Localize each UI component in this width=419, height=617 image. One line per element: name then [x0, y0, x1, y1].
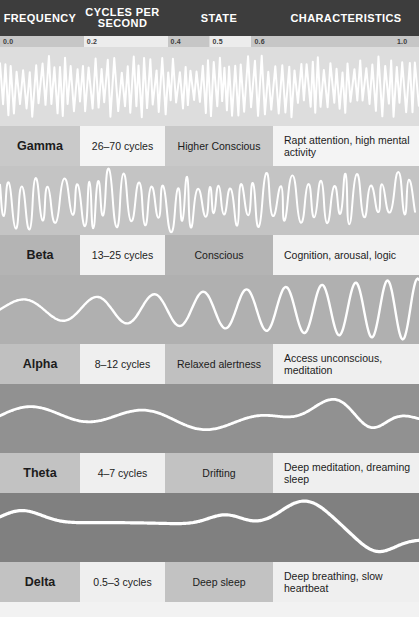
header-state: STATE [165, 0, 273, 36]
ruler-tick-0-0: 0.0 [3, 36, 13, 47]
row-characteristics-beta-label: Cognition, arousal, logic [284, 249, 396, 261]
row-state-beta: Conscious [165, 235, 273, 275]
row-state-theta: Drifting [165, 453, 273, 493]
row-cycles-theta-label: 4–7 cycles [98, 467, 148, 479]
row-state-beta-label: Conscious [194, 249, 243, 261]
header-frequency-label: FREQUENCY [4, 13, 77, 24]
row-cycles-gamma-label: 26–70 cycles [92, 140, 153, 152]
table-header: FREQUENCY CYCLES PER SECOND STATE CHARAC… [0, 0, 419, 36]
table-row: Beta13–25 cyclesConsciousCognition, arou… [0, 235, 419, 275]
waveform-band-delta [0, 493, 419, 562]
row-state-delta: Deep sleep [165, 562, 273, 602]
ruler-tick-0-4: 0.4 [171, 36, 181, 47]
row-characteristics-theta-label: Deep meditation, dreaming sleep [284, 461, 413, 485]
row-state-theta-label: Drifting [202, 467, 235, 479]
row-name-theta-label: Theta [23, 467, 56, 479]
row-characteristics-alpha-label: Access unconscious, meditation [284, 352, 413, 376]
row-characteristics-gamma: Rapt attention, high mental activity [273, 126, 419, 166]
row-name-delta: Delta [0, 562, 80, 602]
row-name-beta: Beta [0, 235, 80, 275]
table-row: Theta4–7 cyclesDriftingDeep meditation, … [0, 453, 419, 493]
row-name-beta-label: Beta [26, 249, 53, 261]
row-state-alpha-label: Relaxed alertness [177, 358, 261, 370]
table-row: Delta0.5–3 cyclesDeep sleepDeep breathin… [0, 562, 419, 602]
row-name-gamma-label: Gamma [17, 140, 63, 152]
ruler-segment [251, 36, 419, 47]
row-state-gamma: Higher Conscious [165, 126, 273, 166]
row-characteristics-beta: Cognition, arousal, logic [273, 235, 419, 275]
row-cycles-alpha-label: 8–12 cycles [95, 358, 150, 370]
row-cycles-alpha: 8–12 cycles [80, 344, 165, 384]
header-characteristics-label: CHARACTERISTICS [290, 13, 401, 24]
ruler-tick-1-0: 1.0 [397, 36, 407, 47]
row-characteristics-delta: Deep breathing, slow heartbeat [273, 562, 419, 602]
row-name-delta-label: Delta [25, 576, 56, 588]
row-state-alpha: Relaxed alertness [165, 344, 273, 384]
row-cycles-beta-label: 13–25 cycles [92, 249, 153, 261]
row-name-alpha-label: Alpha [23, 358, 58, 370]
row-characteristics-theta: Deep meditation, dreaming sleep [273, 453, 419, 493]
table-row: Alpha8–12 cyclesRelaxed alertnessAccess … [0, 344, 419, 384]
table-row: Gamma26–70 cyclesHigher ConsciousRapt at… [0, 126, 419, 166]
waveform-band-beta [0, 166, 419, 235]
row-name-gamma: Gamma [0, 126, 80, 166]
row-name-alpha: Alpha [0, 344, 80, 384]
row-cycles-theta: 4–7 cycles [80, 453, 165, 493]
header-frequency: FREQUENCY [0, 0, 80, 36]
ruler-tick-0-2: 0.2 [87, 36, 97, 47]
row-characteristics-alpha: Access unconscious, meditation [273, 344, 419, 384]
brainwave-chart: FREQUENCY CYCLES PER SECOND STATE CHARAC… [0, 0, 419, 617]
row-name-theta: Theta [0, 453, 80, 493]
row-characteristics-delta-label: Deep breathing, slow heartbeat [284, 570, 413, 594]
ruler-tick-0-5: 0.5 [213, 36, 223, 47]
row-cycles-beta: 13–25 cycles [80, 235, 165, 275]
row-cycles-delta: 0.5–3 cycles [80, 562, 165, 602]
ruler-tick-0-6: 0.6 [254, 36, 264, 47]
row-cycles-delta-label: 0.5–3 cycles [93, 576, 151, 588]
row-state-gamma-label: Higher Conscious [178, 140, 261, 152]
header-cycles-per-second: CYCLES PER SECOND [80, 0, 165, 36]
waveform-band-gamma [0, 47, 419, 126]
row-characteristics-gamma-label: Rapt attention, high mental activity [284, 134, 413, 158]
row-state-delta-label: Deep sleep [192, 576, 245, 588]
frequency-ruler: 0.00.20.40.50.61.0 [0, 36, 419, 47]
header-cycles-per-second-label: CYCLES PER SECOND [80, 7, 165, 29]
waveform-band-alpha [0, 275, 419, 344]
row-cycles-gamma: 26–70 cycles [80, 126, 165, 166]
header-characteristics: CHARACTERISTICS [273, 0, 419, 36]
header-state-label: STATE [201, 13, 237, 24]
waveform-band-theta [0, 384, 419, 453]
